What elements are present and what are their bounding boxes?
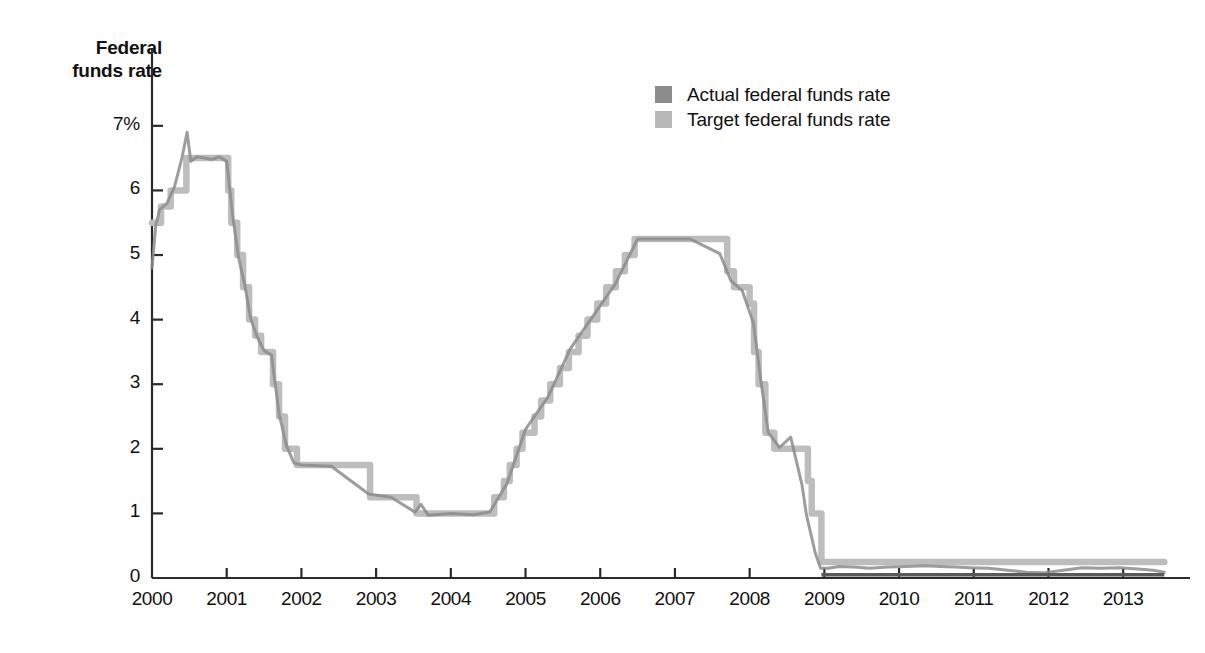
x-tick-label: 2012: [1008, 588, 1088, 610]
x-tick-label: 2001: [187, 588, 267, 610]
axes: [152, 48, 1190, 578]
x-tick-label: 2007: [635, 588, 715, 610]
y-tick-label: 6: [80, 177, 140, 199]
x-tick-label: 2003: [336, 588, 416, 610]
series-line-target: [152, 158, 1164, 562]
y-tick-label: 2: [80, 436, 140, 458]
x-tick-label: 2000: [112, 588, 192, 610]
x-tick-label: 2002: [261, 588, 341, 610]
y-tick-label: 5: [80, 242, 140, 264]
x-tick-label: 2009: [784, 588, 864, 610]
y-tick-label: 7%: [80, 113, 140, 135]
x-tick-label: 2005: [486, 588, 566, 610]
x-tick-label: 2011: [934, 588, 1014, 610]
series-line-actual: [152, 132, 1164, 573]
y-tick-label: 3: [80, 371, 140, 393]
x-tick-label: 2006: [560, 588, 640, 610]
chart-container: Federal funds rate Actual federal funds …: [0, 0, 1205, 653]
x-tick-label: 2004: [411, 588, 491, 610]
y-tick-label: 4: [80, 307, 140, 329]
plot-area: [0, 0, 1205, 653]
x-tick-label: 2010: [859, 588, 939, 610]
x-tick-label: 2008: [710, 588, 790, 610]
y-tick-label: 0: [80, 565, 140, 587]
y-tick-label: 1: [80, 500, 140, 522]
data-series: [152, 132, 1164, 574]
x-tick-label: 2013: [1083, 588, 1163, 610]
